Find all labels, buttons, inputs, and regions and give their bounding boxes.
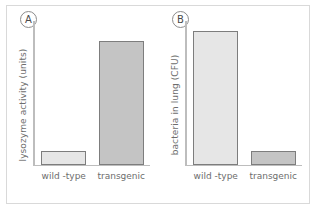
- x-axis-line-b: [185, 165, 302, 166]
- bar-group-a: [35, 21, 150, 165]
- bar-slot-a-wild-type: [35, 21, 93, 165]
- y-axis-label-a: lysozyme activity (units): [18, 48, 28, 161]
- panel-container: A lysozyme activity (units) wild -type: [6, 5, 310, 204]
- bar-b-wild-type[interactable]: [193, 31, 238, 165]
- bar-b-transgenic[interactable]: [251, 151, 296, 165]
- x-axis-labels-b: wild -type transgenic: [187, 171, 302, 185]
- y-axis-label-b: bacteria in lung (CFU): [170, 54, 180, 155]
- bar-a-wild-type[interactable]: [41, 151, 86, 165]
- panel-a: A lysozyme activity (units) wild -type: [6, 5, 158, 204]
- x-axis-labels-a: wild -type transgenic: [35, 171, 150, 185]
- plot-area-a: [33, 21, 150, 166]
- bar-slot-a-transgenic: [93, 21, 151, 165]
- bar-a-transgenic[interactable]: [99, 41, 144, 165]
- bar-group-b: [187, 21, 302, 165]
- x-label-a-wild-type: wild -type: [35, 171, 93, 185]
- x-label-b-transgenic: transgenic: [245, 171, 303, 185]
- plot-area-b: [185, 21, 302, 166]
- y-axis-title-b: bacteria in lung (CFU): [167, 5, 183, 204]
- y-axis-title-a: lysozyme activity (units): [15, 5, 31, 204]
- x-label-a-transgenic: transgenic: [93, 171, 151, 185]
- bar-slot-b-wild-type: [187, 21, 245, 165]
- x-axis-line-a: [33, 165, 150, 166]
- bar-slot-b-transgenic: [245, 21, 303, 165]
- figure-root: A lysozyme activity (units) wild -type: [0, 0, 316, 210]
- x-label-b-wild-type: wild -type: [187, 171, 245, 185]
- panel-b: B bacteria in lung (CFU) wild -type: [158, 5, 310, 204]
